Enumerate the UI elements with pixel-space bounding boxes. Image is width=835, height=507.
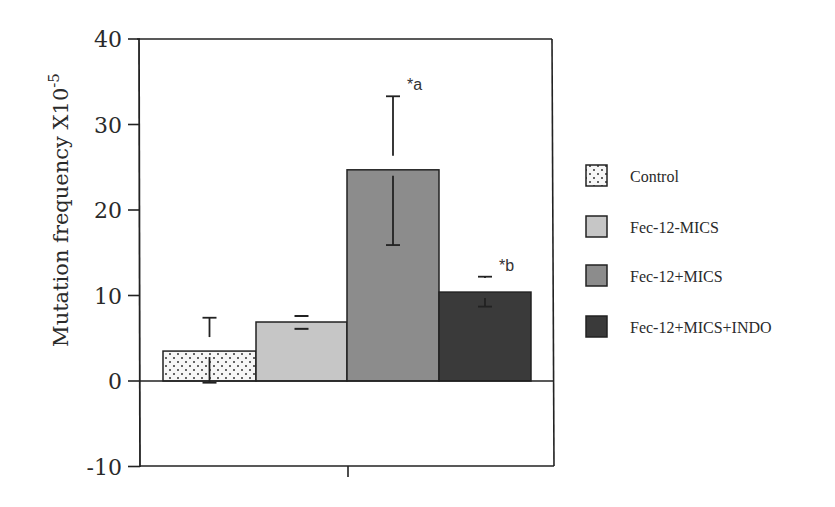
legend-swatch [586, 165, 607, 186]
significance-annotation: *a [407, 76, 422, 93]
y-tick-label: 0 [108, 369, 122, 394]
legend-item: Control [586, 165, 679, 186]
legend-label: Fec-12-MICS [630, 219, 719, 236]
bar-fec-12-mics [256, 322, 347, 381]
y-axis-title: Mutation frequency X10-5 [45, 73, 73, 347]
legend-label: Control [630, 168, 679, 185]
y-tick-label: 30 [94, 113, 122, 138]
legend-item: Fec-12+MICS [586, 265, 723, 286]
y-tick-label: -10 [87, 455, 122, 480]
legend-item: Fec-12+MICS+INDO [586, 316, 772, 337]
legend-swatch [586, 216, 607, 237]
legend-swatch [586, 265, 607, 286]
y-axis-tick-labels: 403020100-10 [87, 27, 122, 480]
bars [163, 170, 531, 381]
legend-swatch [586, 316, 607, 337]
y-axis-ticks [128, 39, 140, 467]
plot-frame [137, 39, 554, 477]
y-tick-label: 40 [94, 27, 122, 52]
legend-label: Fec-12+MICS [630, 268, 723, 285]
legend-label: Fec-12+MICS+INDO [630, 319, 772, 336]
legend-item: Fec-12-MICS [586, 216, 719, 237]
y-tick-label: 10 [94, 284, 122, 309]
y-axis-line [139, 39, 140, 467]
y-tick-label: 20 [94, 198, 122, 223]
right-border [552, 39, 554, 466]
significance-annotation: *b [499, 257, 514, 274]
legend: ControlFec-12-MICSFec-12+MICSFec-12+MICS… [586, 165, 772, 337]
bar-chart: 403020100-10 Mutation frequency X10-5 *a… [0, 0, 835, 507]
